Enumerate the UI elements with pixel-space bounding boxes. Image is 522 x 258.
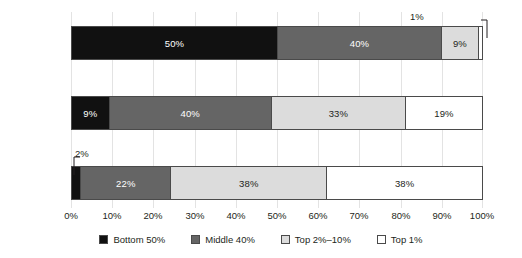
bar-segment-bottom-50[interactable]: 50% bbox=[72, 27, 277, 59]
x-tick-label: 100% bbox=[470, 210, 494, 221]
legend-item-top-1[interactable]: Top 1% bbox=[377, 234, 423, 245]
bar-segment-top-1[interactable]: 38% bbox=[326, 167, 482, 199]
legend: Bottom 50% Middle 40% Top 2%–10% Top 1% bbox=[0, 234, 522, 245]
x-tick-label: 50% bbox=[267, 210, 286, 221]
x-tick-label: 90% bbox=[432, 210, 451, 221]
legend-item-middle-40[interactable]: Middle 40% bbox=[191, 234, 255, 245]
x-axis: 0% 10% 20% 30% 40% 50% 60% 70% 80% 90% 1… bbox=[71, 210, 483, 226]
x-tick-label: 70% bbox=[349, 210, 368, 221]
legend-label: Middle 40% bbox=[205, 234, 255, 245]
legend-swatch-icon bbox=[191, 235, 200, 244]
legend-label: Top 2%–10% bbox=[295, 234, 351, 245]
bar-segment-top-2-10[interactable]: 38% bbox=[170, 167, 326, 199]
legend-item-top-2-10[interactable]: Top 2%–10% bbox=[281, 234, 351, 245]
x-tick-label: 0% bbox=[64, 210, 78, 221]
legend-item-bottom-50[interactable]: Bottom 50% bbox=[99, 234, 165, 245]
x-tick-label: 10% bbox=[102, 210, 121, 221]
bar-row-wealth: Wealth 22% 38% 38% bbox=[71, 166, 483, 200]
x-tick-label: 40% bbox=[226, 210, 245, 221]
stacked-bar-wealth: 22% 38% 38% bbox=[71, 166, 483, 200]
bar-segment-bottom-50[interactable]: 9% bbox=[72, 97, 109, 129]
legend-label: Bottom 50% bbox=[113, 234, 165, 245]
stacked-bar-chart: Population 50% 40% 9% Income 9% 40% 33% … bbox=[0, 0, 522, 258]
legend-swatch-icon bbox=[99, 235, 108, 244]
callout-leader-line-1pct bbox=[399, 18, 489, 44]
x-tick-label: 30% bbox=[185, 210, 204, 221]
stacked-bar-income: 9% 40% 33% 19% bbox=[71, 96, 483, 130]
callout-leader-line-2pct bbox=[65, 155, 95, 181]
legend-label: Top 1% bbox=[391, 234, 423, 245]
x-tick-label: 80% bbox=[391, 210, 410, 221]
bar-segment-top-1[interactable]: 19% bbox=[405, 97, 482, 129]
bar-segment-middle-40[interactable]: 40% bbox=[109, 97, 271, 129]
legend-swatch-icon bbox=[281, 235, 290, 244]
x-tick-label: 20% bbox=[143, 210, 162, 221]
x-tick-label: 60% bbox=[308, 210, 327, 221]
legend-swatch-icon bbox=[377, 235, 386, 244]
bar-row-income: Income 9% 40% 33% 19% bbox=[71, 96, 483, 130]
bar-segment-top-2-10[interactable]: 33% bbox=[271, 97, 405, 129]
